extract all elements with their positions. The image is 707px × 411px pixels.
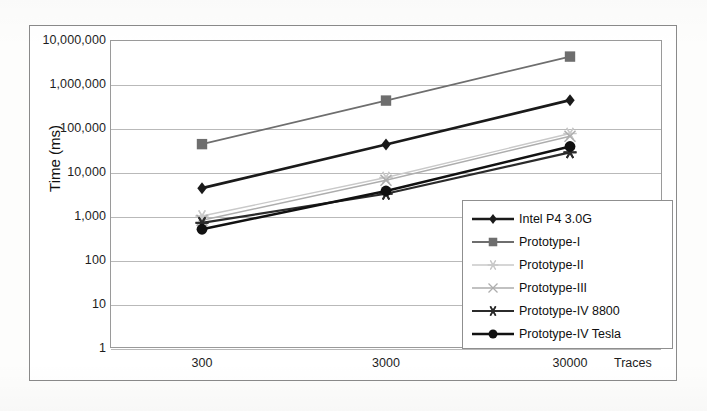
legend-item[interactable]: Prototype-IV Tesla (463, 322, 672, 345)
x-axis-title: Traces (614, 356, 652, 370)
legend-swatch-circle-icon (471, 327, 515, 341)
series-1 (197, 51, 575, 149)
y-axis-tick: 1,000,000 (49, 77, 106, 91)
legend-label: Prototype-IV Tesla (519, 327, 621, 341)
legend-item[interactable]: Prototype-II (463, 253, 672, 276)
legend-swatch-diamond-icon (471, 212, 515, 226)
legend-swatch-cross-icon (471, 281, 515, 295)
x-axis-tick: 30000 (553, 356, 588, 370)
legend-label: Prototype-IV 8800 (519, 304, 620, 318)
y-axis-tick: 100,000 (60, 121, 106, 135)
y-axis-title: Time (ms) (46, 99, 63, 219)
gridline (111, 349, 661, 350)
legend-item[interactable]: Prototype-I (463, 230, 672, 253)
x-axis-tick: 300 (192, 356, 213, 370)
y-axis-tick: 10 (92, 297, 106, 311)
legend-item[interactable]: Prototype-IV 8800 (463, 299, 672, 322)
y-axis-tick: 10,000,000 (42, 33, 106, 47)
y-axis-tick-labels: 10,000,0001,000,000100,00010,0001,000100… (32, 40, 106, 348)
data-point-square (489, 237, 498, 246)
legend-item[interactable]: Prototype-III (463, 276, 672, 299)
y-axis-tick: 100 (85, 253, 106, 267)
legend-item[interactable]: Intel P4 3.0G (463, 207, 672, 230)
y-axis-tick: 10,000 (67, 165, 106, 179)
data-point-circle (381, 186, 392, 197)
data-point-square (381, 95, 391, 105)
chart-root: 10,000,0001,000,000100,00010,0001,000100… (0, 0, 707, 411)
series-0 (197, 94, 574, 194)
data-point-diamond (489, 214, 497, 224)
data-point-diamond (197, 182, 206, 194)
legend-label: Prototype-II (519, 258, 584, 272)
y-axis-tick: 1 (99, 341, 106, 355)
data-point-asterisk (488, 306, 499, 315)
legend-label: Prototype-III (519, 281, 587, 295)
legend-swatch-star-icon (471, 258, 515, 272)
legend-label: Prototype-I (519, 235, 580, 249)
data-point-star (488, 260, 499, 269)
x-axis-tick: 3000 (372, 356, 400, 370)
data-point-circle (197, 224, 208, 235)
legend-swatch-asterisk-icon (471, 304, 515, 318)
legend-label: Intel P4 3.0G (519, 212, 592, 226)
data-point-square (197, 139, 207, 149)
data-point-circle (565, 141, 576, 152)
legend-swatch-square-icon (471, 235, 515, 249)
data-point-diamond (565, 94, 574, 106)
data-point-circle (489, 329, 498, 338)
chart-legend: Intel P4 3.0GPrototype-IPrototype-IIProt… (462, 200, 673, 349)
data-point-diamond (381, 139, 390, 151)
y-axis-tick: 1,000 (74, 209, 106, 223)
data-point-square (565, 51, 575, 61)
